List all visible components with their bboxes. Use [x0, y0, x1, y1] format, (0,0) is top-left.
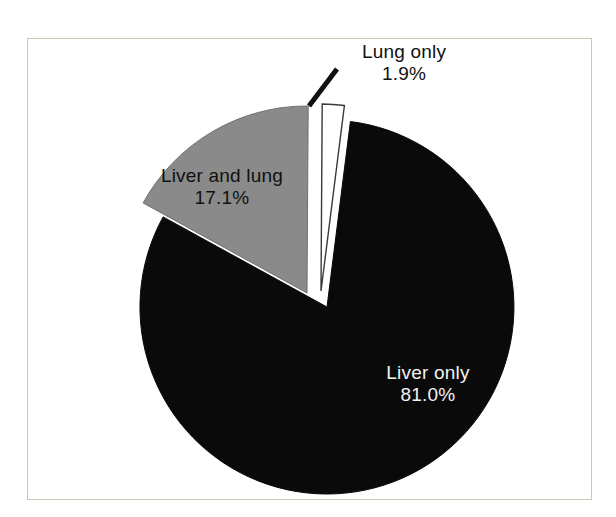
slice-label-liver-only-value: 81.0% [348, 384, 508, 406]
slice-label-lung-only-name: Lung only [330, 41, 478, 63]
slice-label-liver-and-lung: Liver and lung 17.1% [128, 165, 316, 210]
pie-chart-figure: Lung only 1.9% Liver and lung 17.1% Live… [0, 0, 616, 517]
slice-label-liver-only: Liver only 81.0% [348, 362, 508, 407]
slice-label-liver-and-lung-name: Liver and lung [128, 165, 316, 187]
slice-label-lung-only-value: 1.9% [330, 63, 478, 85]
slice-label-liver-only-name: Liver only [348, 362, 508, 384]
pie-chart-graphic [0, 0, 616, 517]
slice-label-liver-and-lung-value: 17.1% [128, 187, 316, 209]
slice-label-lung-only: Lung only 1.9% [330, 41, 478, 86]
